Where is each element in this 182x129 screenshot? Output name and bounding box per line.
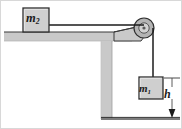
height-arrow-down: [169, 109, 176, 118]
label-height-h: h: [164, 88, 171, 100]
pulley-wheel: [134, 18, 154, 38]
physics-diagram: m2 m1 h: [0, 0, 182, 129]
floor-line: [101, 117, 180, 119]
label-block-m1: m1: [139, 83, 151, 95]
table-support-leg: [101, 41, 112, 119]
table-surface: [4, 32, 132, 41]
label-block-m2: m2: [26, 12, 40, 25]
